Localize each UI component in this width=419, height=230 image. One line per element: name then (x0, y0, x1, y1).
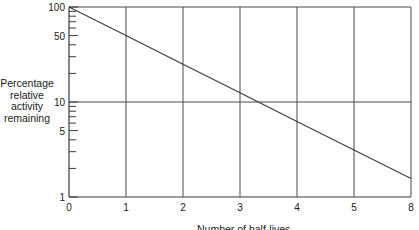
x-tick-label: 8 (408, 202, 414, 213)
x-tick-label: 4 (294, 202, 300, 213)
gridlines (69, 7, 411, 197)
y-tick-label: 10 (54, 97, 66, 108)
y-tick-label: 100 (48, 2, 65, 13)
x-tick-label: 3 (237, 202, 243, 213)
x-tick-label: 2 (180, 202, 186, 213)
y-tick-label: 50 (54, 31, 66, 42)
half-life-decay-chart: 1510501000123458 Number of half-lives Pe… (0, 0, 419, 230)
x-tick-label: 5 (351, 202, 357, 213)
y-axis-title: Percentagerelativeactivityremaining (0, 77, 54, 124)
x-tick-label: 0 (66, 202, 72, 213)
x-axis-title: Number of half-lives (197, 223, 290, 230)
y-axis-title-line: Percentage (0, 77, 54, 89)
y-tick-label: 5 (59, 126, 65, 137)
y-axis-title-line: activity (11, 100, 44, 112)
x-tick-label: 1 (123, 202, 129, 213)
y-axis-title-line: remaining (4, 112, 50, 124)
tick-labels: 1510501000123458 (48, 2, 414, 213)
y-axis-title-line: relative (10, 89, 44, 101)
y-tick-label: 1 (59, 192, 65, 203)
tick-marks (69, 7, 78, 197)
